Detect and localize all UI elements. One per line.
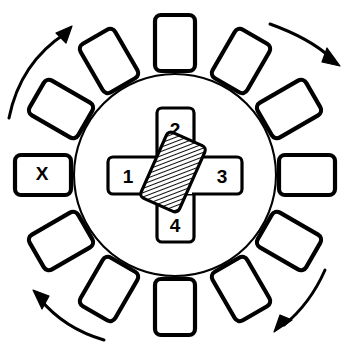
rotary-table-diagram: X 1 2 3 4 [0, 0, 350, 351]
cell-4-label: 4 [170, 215, 181, 236]
station-00[interactable] [155, 15, 195, 71]
station-03[interactable] [279, 155, 335, 195]
arrow-top-right-icon [270, 24, 340, 66]
station-09[interactable]: X [15, 155, 71, 195]
figure-root: X 1 2 3 4 [0, 0, 350, 351]
arrow-bottom-right-icon [274, 270, 325, 332]
station-06[interactable] [155, 279, 195, 335]
hatched-workpiece[interactable] [139, 131, 207, 214]
station-09-label: X [36, 163, 49, 184]
cell-1-label: 1 [123, 166, 134, 187]
cell-3-label: 3 [217, 166, 228, 187]
